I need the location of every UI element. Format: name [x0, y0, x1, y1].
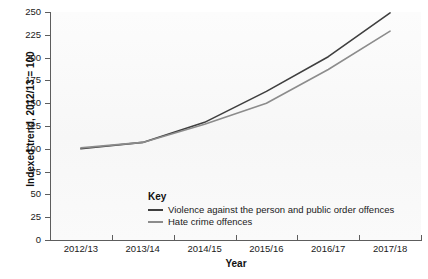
y-tick-75 — [45, 172, 50, 173]
x-tick-label: 2017/18 — [359, 244, 421, 254]
legend-item-1: Hate crime offences — [148, 217, 418, 228]
y-tick-250 — [45, 12, 50, 13]
legend-swatch-icon-1 — [148, 221, 163, 223]
x-tick — [50, 235, 51, 240]
y-tick-25 — [45, 217, 50, 218]
y-tick-100 — [45, 149, 50, 150]
y-tick-label: 25 — [8, 212, 41, 222]
y-tick-150 — [45, 103, 50, 104]
y-axis-line — [50, 12, 51, 241]
legend-label-1: Hate crime offences — [168, 217, 252, 228]
line-chart: 0255075100125150175200225250 2012/132013… — [0, 0, 428, 279]
legend-swatch-icon-0 — [148, 209, 163, 211]
x-tick — [421, 235, 422, 240]
x-tick — [112, 235, 113, 240]
x-tick — [236, 235, 237, 240]
y-tick-225 — [45, 35, 50, 36]
y-tick-label: 50 — [8, 189, 41, 199]
series-line-0 — [81, 13, 390, 149]
y-tick-125 — [45, 126, 50, 127]
x-tick — [297, 235, 298, 240]
legend-label-0: Violence against the person and public o… — [168, 205, 394, 216]
x-tick-label: 2014/15 — [174, 244, 236, 254]
y-tick-50 — [45, 194, 50, 195]
x-tick — [174, 235, 175, 240]
y-tick-label: 0 — [8, 235, 41, 245]
y-tick-label: 250 — [8, 7, 41, 17]
x-tick-label: 2012/13 — [50, 244, 112, 254]
x-axis-title: Year — [50, 259, 422, 269]
legend-item-0: Violence against the person and public o… — [148, 205, 418, 216]
x-tick-label: 2013/14 — [112, 244, 174, 254]
y-tick-175 — [45, 80, 50, 81]
y-axis-title: Indexed trend, 2012/13 = 100 — [26, 29, 36, 209]
y-tick-0 — [45, 240, 50, 241]
chart-legend: Key Violence against the person and publ… — [148, 191, 418, 228]
y-tick-200 — [45, 58, 50, 59]
x-axis-line — [50, 240, 422, 241]
legend-title: Key — [148, 191, 418, 202]
series-line-1 — [81, 31, 390, 148]
x-tick-label: 2015/16 — [236, 244, 298, 254]
x-tick — [359, 235, 360, 240]
x-tick-label: 2016/17 — [297, 244, 359, 254]
y-tick-label: 225 — [8, 30, 41, 40]
